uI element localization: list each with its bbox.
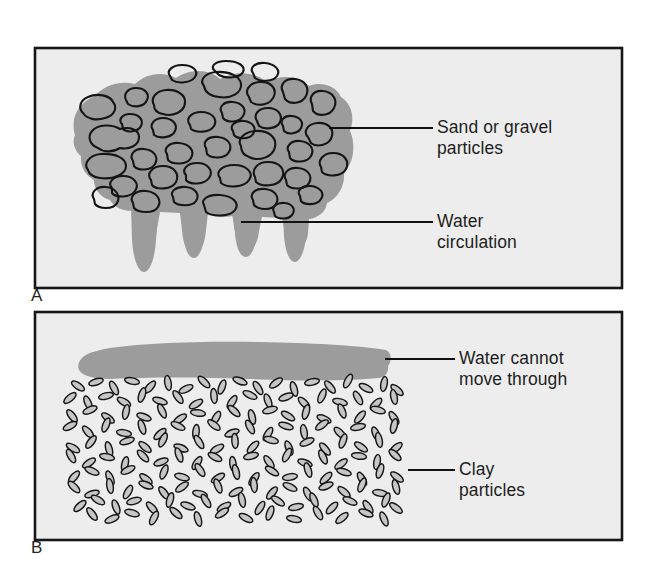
label-water-circulation: Water circulation: [437, 211, 517, 253]
panel-b: [35, 312, 622, 540]
label-sand-or-gravel-particles: Sand or gravel particles: [437, 117, 552, 159]
label-clay-particles: Clay particles: [459, 459, 525, 501]
label-water-cannot-move-through: Water cannot move through: [459, 348, 567, 390]
groundwater-permeability-diagram: [0, 0, 659, 562]
panel-b-letter: B: [31, 538, 43, 558]
water-band-shape: [78, 342, 391, 381]
panel-a: [35, 48, 622, 288]
panel-a-letter: A: [31, 286, 43, 306]
